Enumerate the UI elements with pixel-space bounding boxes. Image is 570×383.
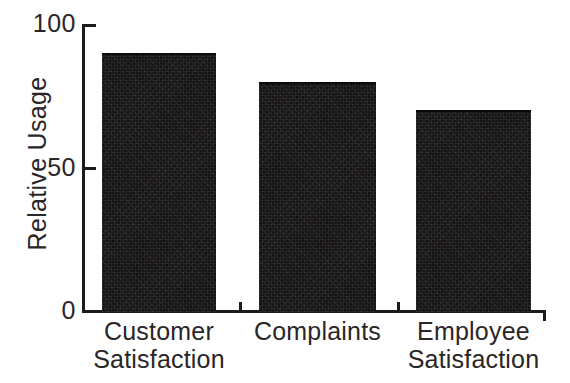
bar-chart: Relative Usage 100 50 0 Customer Satisfa… (0, 0, 570, 383)
x-category-label-3: Employee Satisfaction (369, 317, 570, 373)
bar-employee-satisfaction (416, 110, 531, 312)
x-category-label-3-line2: Satisfaction (369, 345, 570, 373)
x-axis-tick-2 (397, 302, 400, 311)
x-category-label-1-line1: Customer (104, 317, 214, 345)
y-tick-label-50: 50 (8, 155, 76, 180)
y-tick-label-100: 100 (8, 11, 76, 36)
x-category-label-2-line1: Complaints (254, 317, 381, 345)
y-axis-tick-50 (85, 167, 96, 170)
x-category-label-1-line2: Satisfaction (54, 345, 264, 373)
bar-customer-satisfaction (102, 53, 216, 312)
bar-complaints (259, 82, 376, 312)
x-category-label-3-line1: Employee (417, 317, 530, 345)
x-axis-tick-1 (239, 302, 242, 311)
y-axis-tick-100 (85, 24, 96, 27)
